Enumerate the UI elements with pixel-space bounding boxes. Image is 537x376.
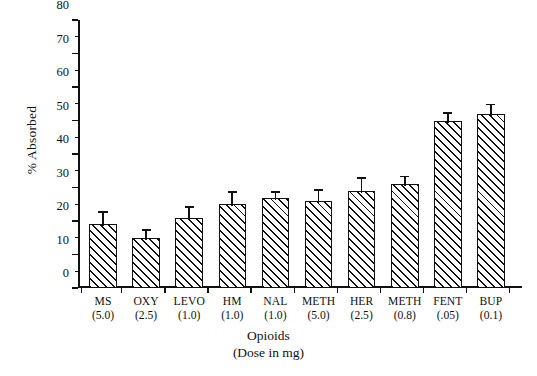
error-bar-cap — [443, 112, 452, 114]
category-dose: (0.1) — [454, 309, 527, 323]
y-axis-tick-major — [72, 187, 78, 188]
y-axis-line — [78, 20, 80, 288]
bar — [477, 114, 505, 288]
plot-area: 01020304050607080 — [78, 20, 522, 288]
bar-group — [340, 20, 383, 288]
y-axis-tick-label: 20 — [57, 199, 70, 214]
error-bar — [188, 208, 190, 220]
error-bar-cap — [486, 104, 495, 106]
x-axis-title-main: Opioids — [0, 327, 537, 344]
y-axis-tick-minor — [75, 137, 79, 138]
y-axis-tick-minor — [75, 237, 79, 238]
x-axis-tick — [380, 288, 381, 293]
bar-chart-figure: % Absorbed 01020304050607080 MS(5.0)OXY(… — [0, 0, 537, 376]
error-bar-cap — [400, 176, 409, 178]
bar-group — [81, 20, 124, 288]
bar — [219, 204, 247, 288]
y-axis-tick-label: 70 — [57, 31, 70, 46]
bar — [262, 198, 290, 288]
y-axis-tick-minor — [75, 170, 79, 171]
x-axis-category-label: BUP(0.1) — [454, 295, 527, 323]
x-axis-tick — [294, 288, 295, 293]
error-bar — [361, 179, 363, 193]
bar-group — [125, 20, 168, 288]
x-axis-tick — [207, 288, 208, 293]
bar — [305, 201, 333, 288]
error-bar — [318, 191, 320, 203]
y-axis-tick-major — [72, 220, 78, 221]
y-axis-tick-major — [72, 86, 78, 87]
y-axis-tick-minor — [75, 204, 79, 205]
bar-group — [254, 20, 297, 288]
x-axis-title: Opioids (Dose in mg) — [0, 327, 537, 361]
y-axis-tick-label: 80 — [57, 0, 70, 13]
error-bar-cap — [98, 211, 107, 213]
bar — [89, 224, 117, 288]
y-axis-tick-minor — [75, 36, 79, 37]
bar — [434, 121, 462, 289]
y-axis-tick-major — [72, 153, 78, 154]
y-axis-tick-major — [72, 287, 78, 288]
y-axis-tick-minor — [75, 70, 79, 71]
error-bar — [231, 193, 233, 207]
error-bar — [490, 105, 492, 115]
y-axis-tick-label: 0 — [63, 266, 69, 281]
y-axis-tick-label: 60 — [57, 65, 70, 80]
error-bar-cap — [271, 191, 280, 193]
y-axis-tick-label: 50 — [57, 98, 70, 113]
x-axis-tick — [81, 288, 82, 293]
error-bar-cap — [185, 206, 194, 208]
x-axis-tick — [121, 288, 122, 293]
error-bar — [275, 193, 277, 200]
error-bar — [102, 213, 104, 227]
error-bar — [447, 114, 449, 123]
error-bar-cap — [142, 229, 151, 231]
y-axis-tick-minor — [75, 271, 79, 272]
y-axis-tick-label: 10 — [57, 232, 70, 247]
error-bar — [404, 177, 406, 186]
bar-group — [426, 20, 469, 288]
bar — [132, 238, 160, 288]
category-name: BUP — [454, 295, 527, 309]
x-axis-tick — [250, 288, 251, 293]
error-bar — [145, 231, 147, 240]
bar — [348, 191, 376, 288]
bar-group — [469, 20, 512, 288]
y-axis-tick-label: 30 — [57, 165, 70, 180]
y-axis-tick-minor — [75, 103, 79, 104]
x-axis-title-sub: (Dose in mg) — [0, 344, 537, 361]
y-axis-tick-major — [72, 19, 78, 20]
bar-group — [211, 20, 254, 288]
y-axis-tick-major — [72, 53, 78, 54]
x-axis-tick — [423, 288, 424, 293]
bar — [391, 184, 419, 288]
bar — [175, 218, 203, 288]
bar-group — [168, 20, 211, 288]
bar-group — [297, 20, 340, 288]
y-axis-title: % Absorbed — [24, 70, 40, 210]
error-bar-cap — [314, 189, 323, 191]
x-axis-tick — [337, 288, 338, 293]
x-axis-tick — [164, 288, 165, 293]
error-bar-cap — [357, 177, 366, 179]
y-axis-tick-major — [72, 254, 78, 255]
x-axis-tick — [509, 288, 510, 293]
x-axis-tick — [466, 288, 467, 293]
error-bar-cap — [228, 191, 237, 193]
y-axis-tick-label: 40 — [57, 132, 70, 147]
bar-group — [383, 20, 426, 288]
y-axis-tick-major — [72, 120, 78, 121]
